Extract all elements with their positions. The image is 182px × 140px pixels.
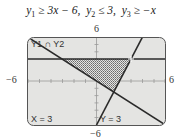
- inequality-title: y1 ≥ 3x − 6, y2 ≤ 3, y3 ≥ −x: [0, 4, 182, 19]
- x-min-label: −6: [6, 74, 17, 85]
- x-coordinate-readout: X = 3: [31, 114, 52, 124]
- graph-plot: Y1 ∩ Y2 X = 3 Y = 3: [27, 37, 166, 126]
- intersection-label: Y1 ∩ Y2: [31, 39, 64, 49]
- y-min-label: −6: [90, 128, 101, 139]
- y-coordinate-readout: Y = 3: [100, 114, 121, 124]
- y-max-label: 6: [94, 23, 99, 34]
- calculator-screen: Y1 ∩ Y2 X = 3 Y = 3: [27, 37, 166, 126]
- x-max-label: 6: [169, 74, 174, 85]
